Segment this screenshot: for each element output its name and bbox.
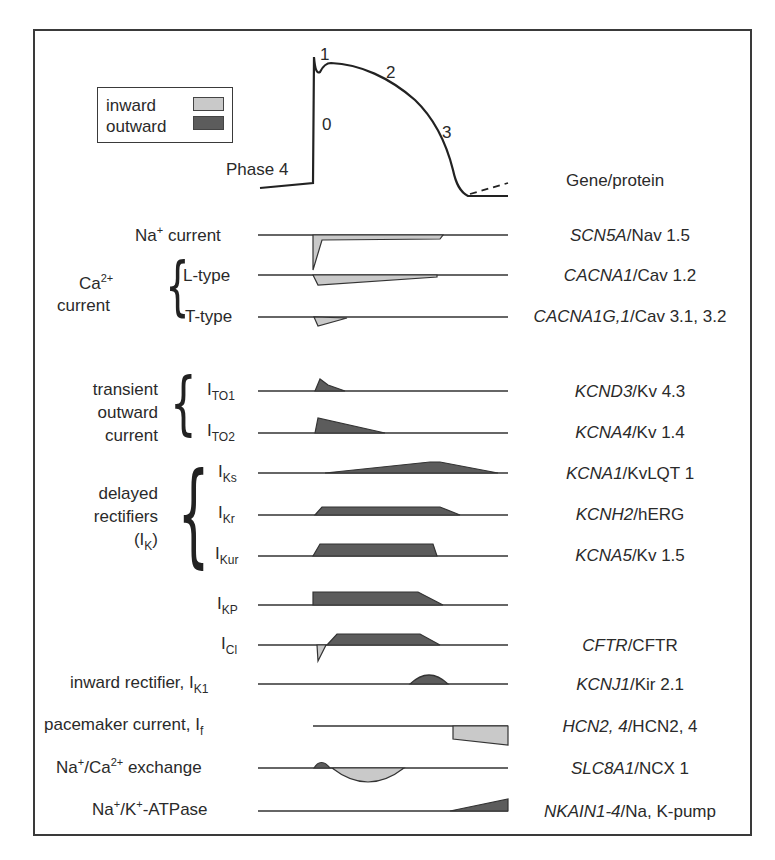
brace-delayed: { <box>178 457 210 569</box>
trace-icl-inward <box>317 645 326 661</box>
gene-ncx: SLC8A1/NCX 1 <box>520 760 740 777</box>
trace-ncx-outward <box>314 763 330 769</box>
trace-ikp <box>313 592 443 605</box>
phase-3-label: 3 <box>442 124 451 141</box>
legend-outward-label: outward <box>106 118 166 135</box>
label-ito2: ITO2 <box>207 422 235 439</box>
label-ikur: IKur <box>215 545 238 562</box>
trace-ikr <box>315 507 460 515</box>
trace-if <box>453 726 508 745</box>
gene-icl: CFTR/CFTR <box>520 637 740 654</box>
phase-4-label: Phase 4 <box>226 161 288 178</box>
gene-ito2: KCNA4/Kv 1.4 <box>520 424 740 441</box>
trace-ito1 <box>315 379 345 391</box>
trace-ttype <box>314 317 347 326</box>
trace-ikur <box>313 544 437 556</box>
outward-currents <box>313 379 508 811</box>
label-delayed: delayed <box>62 485 158 502</box>
gene-ito1: KCND3/Kv 4.3 <box>520 383 740 400</box>
gene-iks: KCNA1/KvLQT 1 <box>520 465 740 482</box>
label-ik1: inward rectifier, IK1 <box>70 674 208 691</box>
label-rectifiers: rectifiers <box>62 508 158 525</box>
label-ikr: IKr <box>218 504 235 521</box>
gene-ikur: KCNA5/Kv 1.5 <box>520 547 740 564</box>
trace-nak <box>450 799 508 811</box>
gene-if: HCN2, 4/HCN2, 4 <box>520 718 740 735</box>
brace-transient: { <box>170 368 197 438</box>
trace-iks <box>325 462 498 473</box>
label-ikp: IKP <box>217 595 238 612</box>
action-potential-trace <box>260 57 508 196</box>
label-if: pacemaker current, If <box>44 716 203 733</box>
label-iks: IKs <box>218 463 237 480</box>
trace-ito2 <box>315 418 385 433</box>
trace-ncx-inward <box>332 768 404 782</box>
phase-0-label: 0 <box>322 116 331 133</box>
phase-2-label: 2 <box>386 64 395 81</box>
gene-ikr: KCNH2/hERG <box>520 506 740 523</box>
trace-ik1 <box>410 675 448 684</box>
trace-ltype <box>313 275 437 285</box>
gene-protein-header: Gene/protein <box>566 172 664 189</box>
label-na-current: Na+ current <box>135 227 221 244</box>
gene-ttype: CACNA1G,1/Cav 3.1, 3.2 <box>520 308 740 325</box>
trace-icl-outward <box>327 634 440 645</box>
legend: inward outward <box>97 87 233 143</box>
label-ltype: L-type <box>183 267 230 284</box>
phase-1-label: 1 <box>320 46 329 63</box>
legend-inward-swatch <box>193 97 224 111</box>
trace-na <box>313 235 443 270</box>
label-icl: ICl <box>221 635 237 652</box>
label-ncx: Na+/Ca2+ exchange <box>56 759 202 776</box>
legend-inward-label: inward <box>106 97 156 114</box>
label-ttype: T-type <box>185 308 232 325</box>
label-outward: outward <box>62 404 158 421</box>
label-nak: Na+/K+-ATPase <box>92 801 208 818</box>
legend-outward-swatch <box>193 116 224 130</box>
baselines <box>258 235 508 811</box>
label-ca-group: Ca2+ <box>79 275 113 292</box>
label-ito1: ITO1 <box>207 381 235 398</box>
gene-nak: NKAIN1-4/Na, K-pump <box>520 803 740 820</box>
gene-na: SCN5A/Nav 1.5 <box>520 227 740 244</box>
gene-ltype: CACNA1/Cav 1.2 <box>520 267 740 284</box>
label-ik-group: (IK) <box>62 531 158 548</box>
gene-ik1: KCNJ1/Kir 2.1 <box>520 676 740 693</box>
label-ca-group-line2: current <box>57 297 110 314</box>
label-current: current <box>62 427 158 444</box>
label-transient: transient <box>62 381 158 398</box>
